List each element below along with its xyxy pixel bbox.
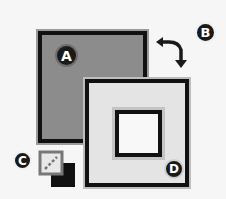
callout-badge-d: D <box>164 159 184 179</box>
callout-badge-b: B <box>195 22 216 43</box>
default-colors-icon <box>38 150 78 190</box>
callout-badge-c: C <box>13 151 32 170</box>
background-swatch-inner <box>115 110 162 157</box>
callout-label-a: A <box>61 49 72 63</box>
swap-colors-button[interactable] <box>155 36 191 70</box>
callout-label-c: C <box>18 155 27 167</box>
default-colors-button[interactable] <box>38 150 78 190</box>
callout-label-b: B <box>201 26 211 39</box>
callout-label-d: D <box>169 163 179 175</box>
callout-badge-a: A <box>55 44 78 67</box>
swap-arrows-icon <box>155 36 191 70</box>
